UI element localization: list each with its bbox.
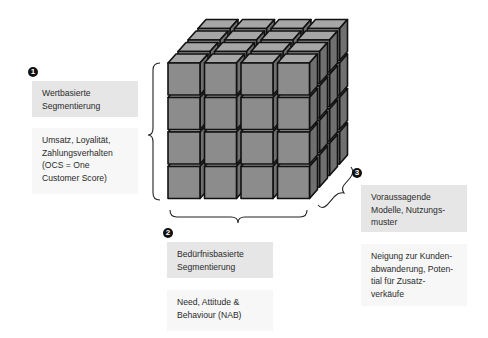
dimension-3-desc-line: abwanderung, Poten- <box>371 263 457 276</box>
dimension-2-description-box: Need, Attitude & Behaviour (NAB) <box>167 290 273 331</box>
dimension-1-title-box: Wertbasierte Segmentierung <box>32 81 138 117</box>
dimension-1-title-line: Wertbasierte <box>42 87 128 100</box>
dimension-2-title-box: Bedürfnisbasierte Segmentierung <box>167 242 273 278</box>
dimension-1-desc-line: Zahlungsverhalten <box>42 147 128 160</box>
dimension-2-desc-line: Need, Attitude & <box>177 296 263 309</box>
dimension-3-title-line: Voraussagende <box>371 191 457 204</box>
number-badge-3: 3 <box>352 168 362 178</box>
dimension-2-desc-line: Behaviour (NAB) <box>177 309 263 322</box>
dimension-3-title-line: muster <box>371 216 457 229</box>
dimension-1-desc-line: Umsatz, Loyalität, <box>42 134 128 147</box>
number-badge-2: 2 <box>163 228 173 238</box>
dimension-3-title-line: Modelle, Nutzungs- <box>371 204 457 217</box>
dimension-2-title-line: Bedürfnisbasierte <box>177 248 263 261</box>
dimension-1-description-box: Umsatz, Loyalität, Zahlungsverhalten (OC… <box>32 128 138 194</box>
dimension-1-title-line: Segmentierung <box>42 100 128 113</box>
dimension-1-desc-line: Customer Score) <box>42 172 128 185</box>
dimension-3-title-box: Voraussagende Modelle, Nutzungs- muster <box>361 185 467 232</box>
dimension-1-desc-line: (OCS = One <box>42 159 128 172</box>
dimension-3-desc-line: Neigung zur Kunden- <box>371 250 457 263</box>
dimension-3-description-box: Neigung zur Kunden- abwanderung, Poten- … <box>361 244 467 306</box>
number-badge-1: 1 <box>28 67 38 77</box>
dimension-3-desc-line: verkäufe <box>371 288 457 301</box>
dimension-2-title-line: Segmentierung <box>177 261 263 274</box>
dimension-3-desc-line: tial für Zusatz- <box>371 275 457 288</box>
